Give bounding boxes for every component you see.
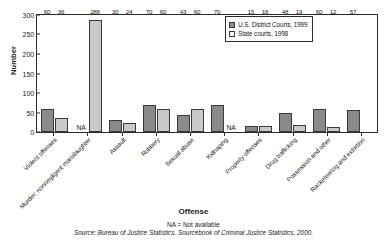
bar-value-label: 36 [58,8,64,15]
bar-slot: 70 [211,15,224,132]
y-tick-150: 150 [23,70,37,77]
x-axis-category-label: Kidnaping [205,136,229,160]
bar-slot: 288 [89,15,102,132]
na-note: NA = Not available [0,221,387,228]
bar-value-label: 48 [282,8,288,15]
x-label-cell: Racketeering and extortion [344,136,378,206]
bar-slot: 60 [191,15,204,132]
bar: 60 [157,109,170,132]
bar-value-label: 30 [112,8,118,15]
bar-group: 6012 [309,15,343,132]
bar-groups: 6036NA28830247060436070NA15164819601257 [37,15,377,132]
bar: 70 [211,105,224,132]
chart-footnotes: NA = Not available Source: Bureau of Jus… [0,221,387,236]
y-tick-250: 250 [23,31,37,38]
x-label-cell: Sexual abuse [173,136,207,206]
x-label-cell: Assault [104,136,138,206]
bar-value-label: 70 [146,8,152,15]
bar-value-label: 60 [316,8,322,15]
bar-slot [361,15,374,132]
bar-value-label: 60 [194,8,200,15]
bar-slot: 12 [327,15,340,132]
bar: 288 [89,20,102,132]
bar-slot: 30 [109,15,122,132]
bar-value-label: 24 [126,8,132,15]
bar: 60 [41,109,54,132]
bar-slot: 60 [157,15,170,132]
bar: 60 [313,109,326,132]
bar: 12 [327,127,340,132]
legend-swatch-district-courts [229,22,235,28]
bar: 57 [347,110,360,132]
bar-group: 3024 [105,15,139,132]
bar-slot: 60 [313,15,326,132]
bar-slot: 60 [41,15,54,132]
bar: 19 [293,125,306,132]
bar: 24 [123,123,136,132]
bar-slot: 57 [347,15,360,132]
x-axis-category-label: Assault [107,136,126,155]
na-marker: NA [76,124,85,131]
bar-value-label: 12 [330,8,336,15]
bar-group: 7060 [139,15,173,132]
y-tick-100: 100 [23,89,37,96]
bar-value-label: 43 [180,8,186,15]
bar-value-label: 15 [248,8,254,15]
legend-item-state-courts: State courts, 1998 [229,29,308,38]
legend-item-district-courts: U.S. District Courts, 1999 [229,20,308,29]
bar-chart-figure: Number 050100150200250300 6036NA28830247… [0,0,387,243]
y-tick-300: 300 [23,12,37,19]
bar-value-label: 60 [44,8,50,15]
y-axis-title: Number [9,27,18,95]
bar: 36 [55,118,68,132]
na-marker: NA [226,124,235,131]
y-tick-200: 200 [23,50,37,57]
legend-label-state-courts: State courts, 1998 [238,30,288,37]
bar: 15 [245,126,258,132]
x-label-cell: Robbery [139,136,173,206]
bar-group: 4360 [173,15,207,132]
bar: 70 [143,105,156,132]
bar-slot: 70 [143,15,156,132]
bar-value-label: 19 [296,8,302,15]
bar-slot: NA [75,15,88,132]
bar-group: 6036 [37,15,71,132]
bar-slot: 24 [123,15,136,132]
x-label-cell: Murder: nonnegligent manslaughter [70,136,104,206]
x-axis-category-label: Robbery [139,136,161,158]
bar: 60 [191,109,204,132]
bar-value-label: 70 [214,8,220,15]
bar-slot: 43 [177,15,190,132]
plot-area: 050100150200250300 6036NA288302470604360… [36,14,378,133]
bar-value-label: 16 [262,8,268,15]
legend-swatch-state-courts [229,31,235,37]
bar-value-label: 60 [160,8,166,15]
bar: 30 [109,120,122,132]
legend-label-district-courts: U.S. District Courts, 1999 [238,21,308,28]
x-label-cell: Property offenses [241,136,275,206]
y-tick-50: 50 [26,109,37,116]
bar-group: 57 [343,15,377,132]
bar: 16 [259,126,272,132]
legend: U.S. District Courts, 1999 State courts,… [225,16,313,42]
bar-value-label: 57 [350,8,356,15]
source-note: Source: Bureau of Justice Statistics. So… [0,229,387,236]
x-axis-title: Offense [0,207,387,216]
bar-group: NA288 [71,15,105,132]
x-axis-category-label: Violent offenses [22,136,58,172]
bar: 43 [177,115,190,132]
bar-value-label: 288 [90,8,100,15]
bar-slot: 36 [55,15,68,132]
x-axis-labels: Violent offensesMurder: nonnegligent man… [36,136,378,206]
bar: 48 [279,113,292,132]
